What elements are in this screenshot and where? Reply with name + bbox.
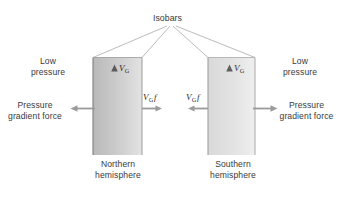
wind-label-southern-base: V [234, 63, 240, 73]
coriolis-arrow-southern [188, 106, 208, 112]
wind-label-southern-sub: G [240, 67, 245, 74]
pressure-gradient-force-label-right: Pressure gradient force [275, 100, 338, 121]
northern-hemisphere-caption: Northern hemisphere [82, 159, 154, 180]
southern-hemisphere-caption: Southern hemisphere [197, 159, 269, 180]
southern-hemisphere-slab [208, 58, 255, 156]
low-pressure-label-right: Low pressure [264, 56, 336, 77]
geostrophic-wind-diagram: Isobars Low pressure Low pressure Pressu… [0, 0, 338, 198]
pgf-arrow-northern [71, 105, 96, 111]
coriolis-label-northern-sub: G [149, 96, 154, 103]
wind-label-southern: VG [234, 63, 244, 74]
coriolis-label-northern: VGf [143, 92, 157, 103]
wind-label-northern: VG [119, 63, 129, 74]
coriolis-label-northern-f: f [154, 92, 157, 102]
northern-hemisphere-slab [93, 58, 142, 156]
wind-label-northern-sub: G [125, 67, 130, 74]
pressure-gradient-force-label-left: Pressure gradient force [0, 100, 70, 121]
coriolis-label-southern-base: V [186, 92, 192, 102]
coriolis-label-southern-f: f [197, 92, 200, 102]
coriolis-label-northern-base: V [143, 92, 149, 102]
wind-label-northern-base: V [119, 63, 125, 73]
isobars-label: Isobars [153, 13, 182, 23]
coriolis-label-southern-sub: G [192, 96, 197, 103]
leader-line-sh-right [176, 26, 255, 58]
coriolis-arrow-northern [142, 106, 162, 112]
diagram-graphics [0, 0, 338, 198]
isobar-leader-lines [93, 26, 255, 58]
pgf-arrow-southern [253, 105, 278, 111]
leader-line-sh-left [173, 26, 208, 58]
coriolis-label-southern: VGf [186, 92, 200, 103]
low-pressure-label-left: Low pressure [12, 56, 84, 77]
